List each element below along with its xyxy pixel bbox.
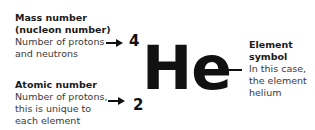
- element-symbol-desc-3: helium: [249, 87, 307, 99]
- mass-number-desc-1: Number of protons: [15, 36, 111, 48]
- symbol-arrow-icon: [227, 69, 242, 71]
- atomic-number-label: Atomic number Number of protons, this is…: [15, 79, 107, 127]
- mass-number-desc-2: and neutrons: [15, 48, 111, 60]
- atomic-arrowhead-icon: [118, 97, 125, 105]
- element-symbol: He: [142, 38, 231, 98]
- element-symbol-title-1: Element: [249, 39, 307, 51]
- atomic-number-desc-2: this is unique to: [15, 103, 107, 115]
- mass-number-value: 4: [129, 32, 139, 50]
- atomic-number-desc-3: each element: [15, 115, 107, 127]
- element-symbol-label: Element symbol In this case, the element…: [249, 39, 307, 99]
- element-symbol-desc-2: the element: [249, 75, 307, 87]
- mass-number-title: Mass number: [15, 12, 111, 24]
- atomic-number-title: Atomic number: [15, 79, 107, 91]
- element-symbol-desc-1: In this case,: [249, 63, 307, 75]
- atomic-number-desc-1: Number of protons,: [15, 91, 107, 103]
- mass-arrowhead-icon: [116, 39, 123, 47]
- mass-number-label: Mass number (nucleon number) Number of p…: [15, 12, 111, 60]
- mass-number-subtitle: (nucleon number): [15, 24, 111, 36]
- element-symbol-title-2: symbol: [249, 51, 307, 63]
